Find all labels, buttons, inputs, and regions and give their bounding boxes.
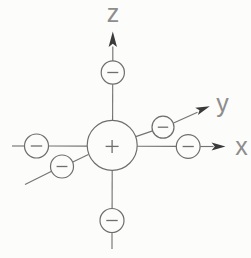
neg-y-line-outer <box>25 171 52 184</box>
y-axis-label: y <box>216 89 229 117</box>
negative-charge-pos-z <box>101 61 124 84</box>
x-axis-arrowhead-icon <box>212 143 226 151</box>
negative-charge-neg-z <box>100 209 124 233</box>
z-axis-arrowhead-icon <box>109 32 117 48</box>
negative-charge-pos-x <box>176 135 200 159</box>
neg-y-line-inner <box>73 155 89 162</box>
y-axis-line-outer <box>174 112 198 123</box>
y-axis-arrowhead-icon <box>195 106 210 115</box>
z-axis-label: z <box>107 0 120 27</box>
negative-charge-neg-y <box>51 155 74 178</box>
negative-charge-neg-x <box>25 134 49 158</box>
y-axis-line-inner <box>136 131 153 137</box>
x-axis-label: x <box>235 132 248 160</box>
negative-charge-pos-y <box>152 116 174 138</box>
diagram-canvas: z y x <box>0 0 251 258</box>
octahedral-charge-diagram: z y x <box>0 0 251 258</box>
central-positive-charge <box>87 120 137 170</box>
